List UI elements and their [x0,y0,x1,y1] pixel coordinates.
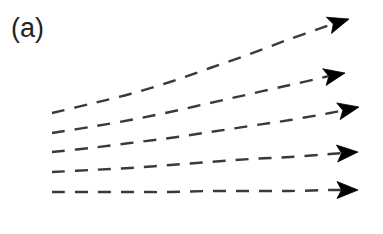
arrowhead-icon [326,17,349,33]
dashed-curve [52,190,341,192]
figure-panel: (a) [0,0,383,234]
dashed-curves-layer [52,24,342,192]
trajectory-diagram [0,0,383,234]
dashed-curve [52,24,334,113]
panel-label: (a) [11,12,44,44]
dashed-curve [52,153,341,172]
dashed-curve [52,110,342,152]
arrowhead-icon [337,103,359,120]
dashed-curve [52,76,329,133]
arrowheads-layer [323,17,359,198]
